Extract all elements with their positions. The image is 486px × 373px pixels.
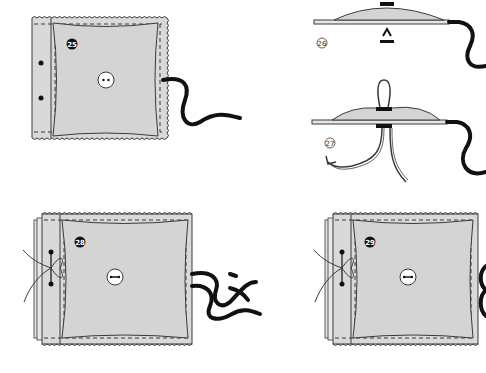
panel-step-26: 26: [314, 0, 486, 72]
thread-loop: [378, 80, 390, 108]
thread-end: [328, 128, 382, 167]
step-badge: 26: [317, 38, 327, 48]
hem-dot: [39, 96, 44, 101]
cord: [163, 79, 240, 124]
button-top: [376, 107, 392, 111]
cord-fragment: [230, 270, 252, 310]
panel-step-29: 29: [325, 210, 486, 360]
step-badge: 28: [75, 237, 86, 248]
step-badge: 25: [67, 39, 78, 50]
step-number: 25: [67, 41, 77, 49]
thread-end: [392, 128, 408, 180]
hem-dot: [39, 61, 44, 66]
step-number: 27: [326, 140, 335, 148]
arrow-up-icon: [383, 29, 391, 36]
step-badge: 29: [365, 237, 376, 248]
thread-end: [330, 128, 384, 169]
shank-button-icon: [107, 269, 123, 285]
shank-button-icon: [400, 269, 416, 285]
panel-step-25: 25: [30, 14, 245, 154]
two-hole-button-icon: [98, 72, 114, 88]
panel-step-28: 28: [20, 210, 250, 360]
button-bottom: [380, 40, 394, 43]
step-number: 26: [318, 40, 327, 48]
panel-step-27: 27: [312, 78, 486, 188]
base-plate: [312, 120, 447, 124]
step-number: 29: [365, 239, 375, 247]
step-badge: 27: [325, 138, 335, 148]
button-bottom: [376, 124, 392, 128]
arrow-pull-icon: [326, 156, 336, 164]
base-plate: [314, 20, 449, 24]
button-top: [380, 2, 394, 6]
cord: [481, 266, 486, 316]
cord: [449, 22, 486, 67]
cord: [447, 122, 486, 173]
step-number: 28: [75, 239, 85, 247]
padded-dome: [334, 8, 444, 20]
